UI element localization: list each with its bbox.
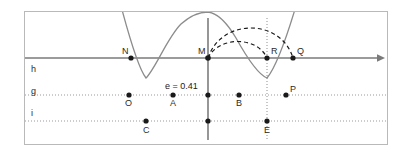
point-vaxis-i-intersection[interactable]: [205, 118, 210, 123]
line-h-arrow-icon: [377, 54, 385, 62]
geometry-applet: N M R Q O A: [0, 0, 411, 159]
point-R-label: R: [271, 46, 278, 56]
point-Q-dot[interactable]: [290, 55, 295, 60]
point-N-dot[interactable]: [128, 55, 133, 60]
point-C-label: C: [143, 125, 150, 135]
point-P-label: P: [290, 84, 296, 94]
point-M-label: M: [198, 46, 206, 56]
line-i-label: i: [31, 108, 33, 118]
point-B-label: B: [236, 98, 242, 108]
point-P-dot[interactable]: [283, 92, 288, 97]
inner-dashed-arc: [208, 42, 267, 59]
point-C-dot[interactable]: [143, 118, 148, 123]
point-O[interactable]: O: [125, 92, 132, 108]
point-N-label: N: [122, 46, 129, 56]
geometry-canvas-frame[interactable]: N M R Q O A: [24, 11, 388, 145]
point-A[interactable]: A: [170, 92, 176, 108]
point-B-dot[interactable]: [236, 92, 241, 97]
point-R-dot[interactable]: [264, 55, 269, 60]
geometry-drawing[interactable]: N M R Q O A: [25, 12, 387, 144]
point-B[interactable]: B: [236, 92, 242, 108]
point-A-dot[interactable]: [170, 92, 175, 97]
point-A-label: A: [170, 98, 176, 108]
line-h-label: h: [31, 64, 36, 74]
line-g-label: g: [31, 86, 36, 96]
point-E-dot[interactable]: [264, 118, 269, 123]
point-Q-label: Q: [297, 46, 304, 56]
point-E-label: E: [264, 125, 270, 135]
point-M-dot[interactable]: [205, 55, 211, 61]
measurement-label[interactable]: e = 0.41: [165, 81, 198, 91]
point-E[interactable]: E: [264, 118, 270, 135]
point-O-label: O: [125, 98, 132, 108]
point-vaxis-g-intersection[interactable]: [205, 92, 210, 97]
point-O-dot[interactable]: [126, 92, 131, 97]
